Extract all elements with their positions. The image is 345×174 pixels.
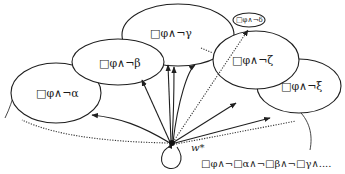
label-zeta: □φ∧¬ζ	[232, 54, 273, 67]
label-beta: □φ∧¬β	[99, 57, 141, 70]
bottom-formula: □φ∧¬□α∧¬□β∧¬□γ∧....	[201, 158, 331, 169]
label-gamma: □φ∧¬γ	[150, 27, 192, 40]
right-edge-line	[296, 108, 311, 150]
modal-worlds-diagram: □φ∧¬α □φ∧¬β □φ∧¬γ □φ∧¬δ □φ∧¬ζ □φ∧¬ξ w* □…	[0, 0, 345, 174]
label-alpha: □φ∧¬α	[36, 87, 79, 100]
reflexive-loop	[162, 146, 181, 168]
label-w-star: w*	[191, 142, 205, 153]
label-delta: □φ∧¬δ	[236, 16, 263, 24]
world-w-star-dot	[169, 140, 175, 146]
label-xi: □φ∧¬ξ	[281, 80, 322, 93]
